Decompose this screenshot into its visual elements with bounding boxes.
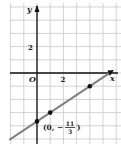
origin-label: O [29, 74, 36, 84]
annotation-numerator: 11 [66, 120, 74, 127]
y-tick-label: 2 [28, 43, 33, 52]
y-axis-label: y [26, 4, 33, 14]
x-tick-label: 2 [60, 75, 65, 84]
y-axis-arrow-icon [35, 5, 40, 12]
coordinate-graph: y x O 22 (0, − 11 3 ) [0, 0, 121, 144]
annotation-prefix: (0, − [43, 123, 63, 132]
data-point [48, 110, 53, 115]
data-point [35, 119, 40, 124]
annotation-suffix: ) [77, 123, 81, 132]
x-axis-label: x [109, 73, 115, 83]
point-annotation: (0, − 11 3 ) [43, 120, 81, 135]
annotation-denominator: 3 [68, 128, 72, 135]
data-point [88, 84, 93, 89]
